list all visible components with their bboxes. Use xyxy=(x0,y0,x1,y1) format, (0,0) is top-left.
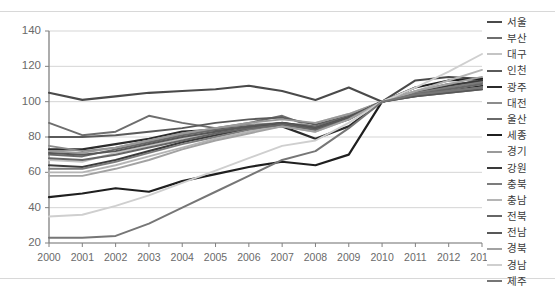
legend-swatch-icon xyxy=(487,232,502,234)
legend-item[interactable]: 전남 xyxy=(487,224,555,240)
x-tick-label: 2009 xyxy=(337,251,361,263)
series-line-서울 xyxy=(49,77,482,102)
x-tick-label: 2003 xyxy=(137,251,161,263)
legend-label: 대구 xyxy=(507,49,527,60)
x-tick-label: 2012 xyxy=(437,251,461,263)
chart-legend: 서울부산대구인천광주대전울산세종경기강원충북충남전북전남경북경남제주 xyxy=(487,14,555,289)
x-tick-label: 2007 xyxy=(270,251,294,263)
legend-item[interactable]: 강원 xyxy=(487,160,555,176)
legend-item[interactable]: 전북 xyxy=(487,208,555,224)
legend-label: 충북 xyxy=(507,179,527,190)
legend-swatch-icon xyxy=(487,248,502,250)
legend-item[interactable]: 울산 xyxy=(487,111,555,127)
x-tick-label: 2011 xyxy=(404,251,427,263)
x-tick-label: 2004 xyxy=(171,251,195,263)
legend-swatch-icon xyxy=(487,21,502,23)
legend-label: 부산 xyxy=(507,33,527,44)
legend-label: 제주 xyxy=(507,276,527,287)
y-tick-label: 20 xyxy=(28,236,41,248)
y-tick-label: 120 xyxy=(22,59,41,71)
legend-swatch-icon xyxy=(487,167,502,169)
legend-label: 경남 xyxy=(507,260,527,271)
legend-item[interactable]: 경기 xyxy=(487,144,555,160)
legend-item[interactable]: 제주 xyxy=(487,273,555,289)
legend-label: 경기 xyxy=(507,146,527,157)
legend-item[interactable]: 경북 xyxy=(487,241,555,257)
legend-swatch-icon xyxy=(487,215,502,217)
legend-label: 대전 xyxy=(507,98,527,109)
legend-item[interactable]: 충남 xyxy=(487,192,555,208)
legend-label: 전남 xyxy=(507,227,527,238)
legend-swatch-icon xyxy=(487,102,502,104)
legend-item[interactable]: 인천 xyxy=(487,63,555,79)
x-tick-label: 2006 xyxy=(237,251,261,263)
legend-label: 광주 xyxy=(507,82,527,93)
legend-swatch-icon xyxy=(487,199,502,201)
legend-swatch-icon xyxy=(487,134,502,136)
line-chart: 2040608010012014020002001200220032004200… xyxy=(0,0,487,299)
legend-item[interactable]: 충북 xyxy=(487,176,555,192)
legend-label: 강원 xyxy=(507,163,527,174)
x-tick-label: 2001 xyxy=(71,251,95,263)
legend-label: 세종 xyxy=(507,130,527,141)
legend-item[interactable]: 부산 xyxy=(487,30,555,46)
legend-item[interactable]: 대전 xyxy=(487,95,555,111)
legend-item[interactable]: 세종 xyxy=(487,127,555,143)
x-tick-label: 2005 xyxy=(204,251,228,263)
legend-label: 경북 xyxy=(507,243,527,254)
x-tick-label: 2010 xyxy=(370,251,394,263)
legend-swatch-icon xyxy=(487,280,502,282)
y-tick-label: 140 xyxy=(22,24,41,36)
legend-swatch-icon xyxy=(487,264,502,266)
legend-label: 인천 xyxy=(507,65,527,76)
legend-swatch-icon xyxy=(487,118,502,120)
legend-swatch-icon xyxy=(487,183,502,185)
legend-item[interactable]: 경남 xyxy=(487,257,555,273)
x-tick-label: 2002 xyxy=(104,251,128,263)
legend-item[interactable]: 대구 xyxy=(487,46,555,62)
legend-swatch-icon xyxy=(487,86,502,88)
legend-swatch-icon xyxy=(487,151,502,153)
legend-swatch-icon xyxy=(487,37,502,39)
legend-label: 전북 xyxy=(507,211,527,222)
x-tick-label: 2000 xyxy=(37,251,61,263)
chart-page: 2040608010012014020002001200220032004200… xyxy=(0,0,555,299)
legend-label: 충남 xyxy=(507,195,527,206)
legend-swatch-icon xyxy=(487,53,502,55)
y-tick-label: 80 xyxy=(28,130,41,142)
legend-label: 울산 xyxy=(507,114,527,125)
x-tick-label: 2013 xyxy=(470,251,487,263)
x-tick-label: 2008 xyxy=(304,251,328,263)
legend-swatch-icon xyxy=(487,70,502,72)
legend-item[interactable]: 광주 xyxy=(487,79,555,95)
y-tick-label: 40 xyxy=(28,201,41,213)
legend-label: 서울 xyxy=(507,17,527,28)
y-tick-label: 60 xyxy=(28,165,41,177)
y-tick-label: 100 xyxy=(22,95,41,107)
legend-item[interactable]: 서울 xyxy=(487,14,555,30)
chart-plot-svg: 2040608010012014020002001200220032004200… xyxy=(0,0,487,299)
